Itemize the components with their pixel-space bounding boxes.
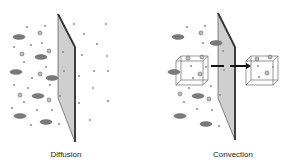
medium-solute xyxy=(178,92,182,96)
small-solute xyxy=(58,123,60,125)
diffusion-label: Diffusion xyxy=(51,150,82,159)
medium-solute xyxy=(265,71,269,75)
large-solute xyxy=(32,94,44,99)
fluid-volume-cube-left xyxy=(176,56,208,85)
small-solute xyxy=(196,108,198,110)
small-solute xyxy=(73,23,75,25)
medium-solute xyxy=(18,93,22,97)
small-solute xyxy=(23,101,25,103)
small-solute xyxy=(183,101,185,103)
small-solute xyxy=(78,102,80,104)
small-solute xyxy=(257,65,259,67)
large-solutes xyxy=(10,35,58,125)
small-solute xyxy=(49,84,51,86)
medium-solute xyxy=(38,72,42,76)
small-solute xyxy=(41,42,43,44)
small-solute xyxy=(59,95,61,97)
convection-label: Convection xyxy=(213,150,253,159)
arrow-head-icon xyxy=(246,63,251,69)
small-solute xyxy=(204,25,206,27)
small-solute xyxy=(44,25,46,27)
large-solute xyxy=(172,35,184,40)
medium-solute xyxy=(47,49,51,53)
small-solute xyxy=(107,70,109,72)
large-solute xyxy=(210,41,222,46)
large-solute xyxy=(40,120,52,125)
small-solute xyxy=(186,26,188,28)
convection-panel: Convection xyxy=(168,13,278,159)
small-solute xyxy=(81,54,83,56)
large-solute xyxy=(200,122,212,127)
medium-solute xyxy=(198,72,202,76)
diagram: Diffusion xyxy=(0,0,287,167)
small-solute xyxy=(105,23,107,25)
small-solute xyxy=(27,87,29,89)
small-solute xyxy=(202,42,204,44)
small-solute xyxy=(83,33,85,35)
small-solute xyxy=(30,44,32,46)
small-solute xyxy=(13,46,15,48)
small-solute xyxy=(107,100,109,102)
large-solute xyxy=(35,55,47,60)
medium-solute xyxy=(186,56,190,60)
small-solute xyxy=(210,85,212,87)
small-solute xyxy=(188,87,190,89)
small-solute xyxy=(78,75,80,77)
large-solute xyxy=(46,76,58,81)
medium-solute xyxy=(255,57,259,61)
small-solute xyxy=(89,119,91,121)
small-solute xyxy=(218,125,220,127)
medium-solute xyxy=(199,31,203,35)
medium-solute xyxy=(268,55,272,59)
medium-solute xyxy=(200,55,204,59)
small-solute xyxy=(190,65,192,67)
small-solute xyxy=(31,77,33,79)
diffusion-panel: Diffusion xyxy=(10,14,109,159)
large-solute xyxy=(174,114,186,119)
small-solute xyxy=(205,66,207,68)
medium-solute xyxy=(207,97,211,101)
small-solute xyxy=(62,51,64,53)
small-solute xyxy=(219,94,221,96)
small-solute xyxy=(106,55,108,57)
membrane xyxy=(218,13,235,140)
large-solute xyxy=(13,35,25,40)
small-solute xyxy=(93,70,95,72)
small-solute xyxy=(11,107,13,109)
small-solute xyxy=(26,26,28,28)
medium-solute xyxy=(38,31,42,35)
small-solute xyxy=(258,76,260,78)
small-solute xyxy=(223,69,225,71)
small-solute xyxy=(13,84,15,86)
large-solute xyxy=(14,114,26,119)
small-solute xyxy=(36,109,38,111)
small-solute xyxy=(192,77,194,79)
small-solute xyxy=(51,109,53,111)
fluid-volume-cube-right xyxy=(246,56,278,85)
medium-solute xyxy=(47,98,51,102)
small-solute xyxy=(272,66,274,68)
large-solute xyxy=(10,70,22,75)
small-solute xyxy=(92,87,94,89)
small-solute xyxy=(96,43,98,45)
medium-solute xyxy=(20,52,24,56)
small-solute xyxy=(23,61,25,63)
small-solute xyxy=(45,66,47,68)
small-solute xyxy=(30,124,32,126)
large-solute xyxy=(168,70,180,75)
small-solute xyxy=(211,109,213,111)
large-solute xyxy=(192,94,204,99)
membrane xyxy=(58,14,75,142)
small-solute xyxy=(63,70,65,72)
small-solute xyxy=(222,50,224,52)
